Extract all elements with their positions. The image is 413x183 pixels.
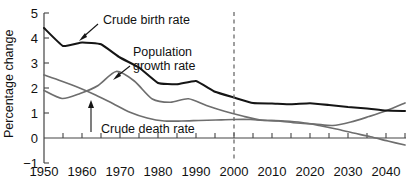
series-population-growth-rate [44, 71, 405, 125]
x-tick-label-2030: 2030 [334, 164, 363, 179]
x-axis-tick-labels: 1950 1960 1970 1980 1990 2000 2010 2020 … [30, 164, 401, 179]
x-tick-label-2020: 2020 [296, 164, 325, 179]
annotation-crude-birth-rate: Crude birth rate [79, 13, 190, 41]
population-growth-rate-label-line2: growth rate [133, 59, 196, 73]
x-tick-label-2040: 2040 [372, 164, 401, 179]
x-tick-label-1960: 1960 [68, 164, 97, 179]
x-axis [44, 133, 406, 138]
y-axis [44, 13, 49, 163]
y-tick-label-1: 1 [31, 106, 38, 121]
x-tick-label-1970: 1970 [106, 164, 135, 179]
y-tick-label-0: 0 [31, 131, 38, 146]
x-tick-label-1990: 1990 [182, 164, 211, 179]
y-axis-tick-labels: 5 4 3 2 1 0 −1 [23, 6, 38, 171]
x-tick-label-1980: 1980 [144, 164, 173, 179]
x-tick-label-1950: 1950 [30, 164, 59, 179]
x-tick-label-2010: 2010 [258, 164, 287, 179]
y-tick-label-3: 3 [31, 56, 38, 71]
crude-death-rate-label: Crude death rate [101, 122, 195, 136]
crude-death-rate-arrow-head [88, 100, 94, 108]
y-tick-label-2: 2 [31, 81, 38, 96]
crude-birth-rate-label: Crude birth rate [103, 13, 190, 27]
series-crude-birth-rate [44, 28, 405, 111]
annotation-crude-death-rate: Crude death rate [88, 100, 195, 136]
chart-container: Percentage change 5 4 3 2 1 0 −1 [0, 0, 413, 183]
y-axis-title: Percentage change [2, 30, 16, 138]
y-tick-label-5: 5 [31, 6, 38, 21]
y-tick-label-4: 4 [31, 31, 38, 46]
x-tick-label-2000: 2000 [220, 164, 249, 179]
population-growth-rate-label-line1: Population [133, 45, 192, 59]
data-series-group [44, 28, 405, 145]
population-rates-line-chart: Percentage change 5 4 3 2 1 0 −1 [0, 0, 413, 183]
